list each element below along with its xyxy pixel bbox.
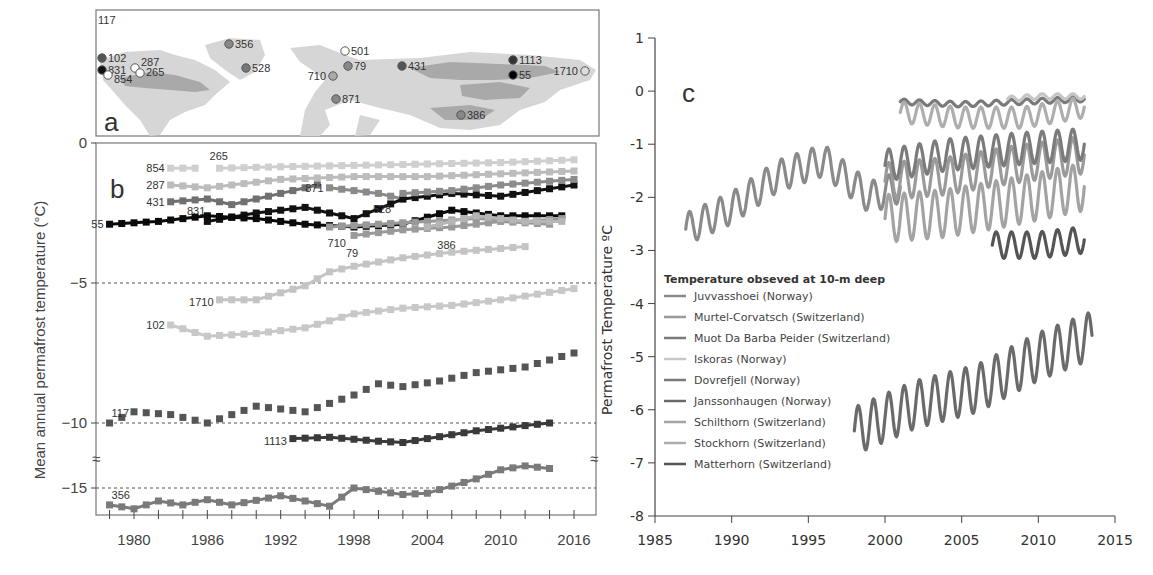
legend-label: Iskoras (Norway) xyxy=(694,353,787,366)
site-marker-icon xyxy=(509,56,517,64)
series-label: 102 xyxy=(146,319,164,331)
legend-item: Murtel-Corvatsch (Switzerland) xyxy=(664,311,865,324)
series-label: 287 xyxy=(146,179,164,191)
legend-item: Iskoras (Norway) xyxy=(664,353,787,366)
legend-title: Temperature obseved at 10-m deep xyxy=(664,273,885,286)
x-tick-label: 2004 xyxy=(411,531,444,548)
map-site-501: 501 xyxy=(341,45,370,57)
map-site-431: 431 xyxy=(398,60,427,72)
y-tick-label: 0 xyxy=(635,83,644,99)
site-marker-icon xyxy=(98,54,106,62)
axis-break-icon: ≈ xyxy=(590,450,598,467)
site-label: 871 xyxy=(342,93,360,105)
x-tick-label: 1995 xyxy=(791,532,827,548)
legend-label: Dovrefjell (Norway) xyxy=(694,374,800,387)
map-site-55: 55 xyxy=(509,69,531,81)
series-label: 871 xyxy=(305,182,323,194)
site-label: 1113 xyxy=(519,54,542,66)
site-label: 265 xyxy=(146,66,164,78)
site-marker-icon xyxy=(332,95,340,103)
site-label: 117 xyxy=(98,14,116,26)
map-site-1710: 1710 xyxy=(554,65,590,77)
site-marker-icon xyxy=(329,72,337,80)
legend-label: Juvvasshoei (Norway) xyxy=(693,290,813,303)
series-label: 356 xyxy=(112,489,130,501)
site-marker-icon xyxy=(225,40,233,48)
series-label: 117 xyxy=(112,407,130,419)
panel-c-legend: Temperature obseved at 10-m deep Juvvass… xyxy=(664,273,890,471)
x-tick-label: 1998 xyxy=(337,531,370,548)
x-tick-label: 1986 xyxy=(191,531,224,548)
y-tick-label: -8 xyxy=(630,508,644,524)
site-marker-icon xyxy=(509,71,517,79)
panel-a-map: 1171028318542872653565285017971087143111… xyxy=(96,10,599,137)
map-site-356: 356 xyxy=(225,38,254,50)
x-tick-label: 1990 xyxy=(714,532,750,548)
legend-label: Murtel-Corvatsch (Switzerland) xyxy=(694,311,865,324)
site-label: 854 xyxy=(114,73,132,85)
x-tick-label: 2000 xyxy=(867,532,903,548)
site-marker-icon xyxy=(581,67,589,75)
site-marker-icon xyxy=(136,69,144,77)
site-label: 55 xyxy=(519,69,531,81)
map-site-117: 117 xyxy=(98,14,116,26)
series-label: 265 xyxy=(210,150,228,162)
series-label: 710 xyxy=(328,237,346,249)
y-tick-label: -1 xyxy=(630,136,644,152)
map-site-1113: 1113 xyxy=(509,54,542,66)
legend-item: Dovrefjell (Norway) xyxy=(664,374,800,387)
x-tick-label: 1992 xyxy=(264,531,297,548)
panel-b-chart: 0−5−10−151980198619921998200420102016≈≈ … xyxy=(31,134,598,548)
series-label: 431 xyxy=(146,196,164,208)
y-tick-label: 1 xyxy=(635,30,644,46)
site-marker-icon xyxy=(398,62,406,70)
x-tick-label: 2015 xyxy=(1097,532,1133,548)
series-line xyxy=(992,228,1084,259)
x-tick-label: 2010 xyxy=(1021,532,1057,548)
y-tick-label: -7 xyxy=(630,455,644,471)
site-label: 431 xyxy=(408,60,426,72)
site-label: 102 xyxy=(108,52,126,64)
series-label: 1113 xyxy=(264,435,287,447)
panel-c-chart: 10-1-2-3-4-5-6-7-81985199019952000200520… xyxy=(599,30,1133,548)
site-label: 501 xyxy=(351,45,369,57)
figure-canvas: 1171028318542872653565285017971087143111… xyxy=(0,0,1153,575)
y-tick-label: -3 xyxy=(630,242,644,258)
y-tick-label: −5 xyxy=(70,274,87,291)
panel-b-letter: b xyxy=(110,174,124,204)
series-label: 528 xyxy=(373,203,391,215)
panel-c-ylabel: Permafrost Temperature ºC xyxy=(599,225,615,415)
legend-label: Janssonhaugen (Norway) xyxy=(693,395,831,408)
y-tick-label: -2 xyxy=(630,189,644,205)
site-marker-icon xyxy=(344,62,352,70)
panel-b-ylabel: Mean annual permafrost temperature (°C) xyxy=(31,201,48,480)
panel-c-letter: c xyxy=(682,78,695,108)
panel-a-letter: a xyxy=(104,107,119,137)
map-site-79: 79 xyxy=(344,60,366,72)
axis-break-icon: ≈ xyxy=(92,450,100,467)
map-site-102: 102 xyxy=(98,52,127,64)
x-tick-label: 1980 xyxy=(117,531,150,548)
legend-item: Schilthorn (Switzerland) xyxy=(664,416,826,429)
series-label: 1710 xyxy=(189,296,213,308)
site-label: 1710 xyxy=(554,65,578,77)
site-label: 386 xyxy=(467,109,485,121)
x-tick-label: 2016 xyxy=(557,531,590,548)
legend-label: Stockhorn (Switzerland) xyxy=(694,437,826,450)
legend-item: Matterhorn (Switzerland) xyxy=(664,458,831,471)
legend-label: Schilthorn (Switzerland) xyxy=(694,416,826,429)
series-label: 79 xyxy=(346,247,358,259)
map-site-528: 528 xyxy=(242,62,271,74)
site-marker-icon xyxy=(457,111,465,119)
site-label: 710 xyxy=(308,70,326,82)
legend-item: Stockhorn (Switzerland) xyxy=(664,437,826,450)
x-tick-label: 2010 xyxy=(484,531,517,548)
y-tick-label: -6 xyxy=(630,402,644,418)
series-label: 55 xyxy=(91,218,103,230)
y-tick-label: -5 xyxy=(630,349,644,365)
map-site-871: 871 xyxy=(332,93,361,105)
legend-label: Muot Da Barba Peider (Switzerland) xyxy=(694,332,890,345)
site-label: 79 xyxy=(354,60,366,72)
site-marker-icon xyxy=(242,64,250,72)
site-marker-icon xyxy=(104,71,112,79)
